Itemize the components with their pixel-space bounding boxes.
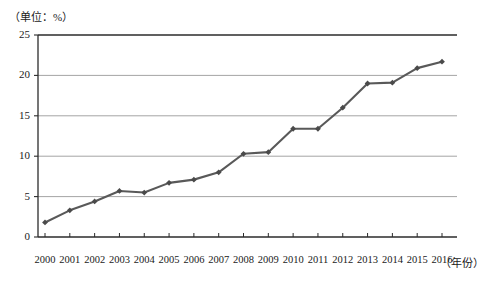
gridlines (38, 35, 457, 237)
data-line-series-1 (45, 62, 442, 223)
data-point-marker (166, 180, 172, 186)
data-point-marker (92, 199, 98, 205)
y-tick-label: 5 (4, 191, 30, 202)
data-point-marker (191, 177, 197, 183)
chart-plot-area (0, 0, 495, 282)
y-tick-label: 20 (4, 69, 30, 80)
y-tick-label: 0 (4, 231, 30, 242)
chart-container: （单位：%） 0510152025 2000200120022003200420… (0, 0, 495, 282)
x-axis-title: （年份） (440, 254, 484, 270)
y-tick-label: 15 (4, 110, 30, 121)
data-point-marker (117, 188, 123, 194)
y-tick-label: 10 (4, 150, 30, 161)
y-tick-label: 25 (4, 29, 30, 40)
data-point-marker (439, 59, 445, 65)
data-point-marker (141, 190, 147, 196)
